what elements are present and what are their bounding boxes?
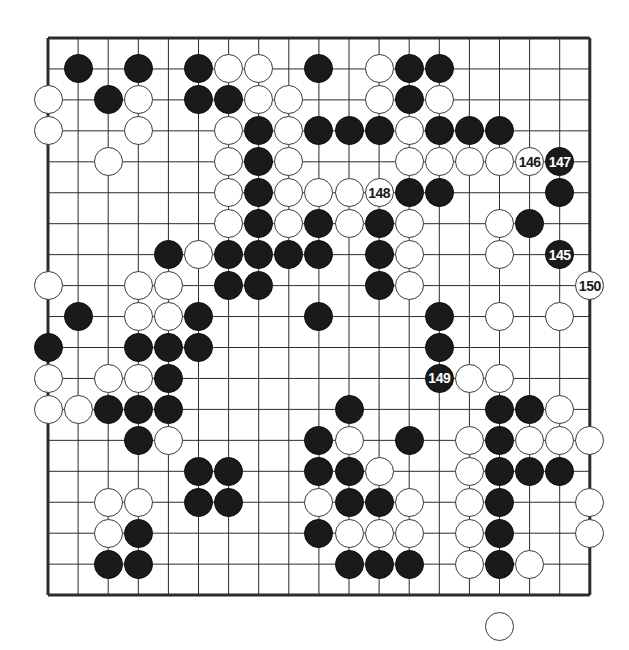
black-stone[interactable] — [154, 364, 183, 393]
black-stone[interactable] — [154, 333, 183, 362]
white-stone[interactable] — [455, 519, 484, 548]
white-stone[interactable] — [485, 302, 514, 331]
white-stone[interactable] — [425, 85, 454, 114]
white-stone[interactable] — [335, 209, 364, 238]
black-stone[interactable] — [365, 209, 394, 238]
white-stone[interactable] — [455, 364, 484, 393]
black-stone[interactable] — [124, 395, 153, 424]
black-stone[interactable] — [335, 488, 364, 517]
black-stone[interactable] — [515, 395, 544, 424]
white-stone[interactable] — [395, 240, 424, 269]
white-stone[interactable] — [124, 85, 153, 114]
white-stone[interactable] — [154, 271, 183, 300]
white-stone[interactable] — [304, 488, 333, 517]
white-stone[interactable] — [124, 116, 153, 145]
white-stone[interactable] — [124, 488, 153, 517]
white-stone[interactable] — [455, 488, 484, 517]
white-stone[interactable] — [485, 209, 514, 238]
black-stone[interactable] — [184, 302, 213, 331]
black-stone[interactable] — [425, 116, 454, 145]
white-stone[interactable] — [335, 178, 364, 207]
black-stone[interactable] — [124, 426, 153, 455]
black-stone[interactable] — [485, 519, 514, 548]
black-stone[interactable] — [365, 271, 394, 300]
white-stone[interactable] — [485, 240, 514, 269]
black-stone[interactable] — [94, 550, 123, 579]
white-stone[interactable] — [545, 426, 574, 455]
white-stone[interactable] — [575, 519, 604, 548]
white-stone[interactable] — [455, 550, 484, 579]
white-stone[interactable] — [64, 395, 93, 424]
white-stone[interactable] — [34, 271, 63, 300]
white-stone[interactable] — [124, 271, 153, 300]
black-stone[interactable] — [485, 426, 514, 455]
black-stone[interactable] — [154, 240, 183, 269]
white-stone[interactable] — [545, 395, 574, 424]
black-stone[interactable] — [214, 488, 243, 517]
black-stone[interactable] — [154, 395, 183, 424]
white-stone[interactable] — [365, 54, 394, 83]
white-stone[interactable] — [395, 116, 424, 145]
black-stone[interactable] — [304, 457, 333, 486]
black-stone[interactable] — [545, 457, 574, 486]
white-stone[interactable] — [395, 209, 424, 238]
black-stone[interactable] — [485, 488, 514, 517]
white-stone[interactable] — [455, 147, 484, 176]
black-stone[interactable] — [335, 116, 364, 145]
white-stone[interactable] — [34, 85, 63, 114]
black-stone[interactable] — [335, 457, 364, 486]
black-stone[interactable] — [124, 333, 153, 362]
black-stone[interactable] — [395, 426, 424, 455]
white-stone[interactable] — [335, 519, 364, 548]
white-stone[interactable] — [395, 147, 424, 176]
white-stone[interactable] — [455, 426, 484, 455]
black-stone[interactable] — [124, 519, 153, 548]
white-stone[interactable] — [395, 488, 424, 517]
black-stone[interactable] — [425, 302, 454, 331]
black-stone[interactable] — [64, 302, 93, 331]
white-stone[interactable] — [575, 488, 604, 517]
white-stone[interactable] — [395, 519, 424, 548]
black-stone[interactable] — [365, 240, 394, 269]
white-stone[interactable] — [94, 519, 123, 548]
white-stone[interactable] — [34, 116, 63, 145]
black-stone[interactable] — [94, 395, 123, 424]
black-stone[interactable] — [184, 457, 213, 486]
white-stone[interactable] — [575, 426, 604, 455]
black-stone[interactable] — [335, 395, 364, 424]
white-stone[interactable] — [34, 395, 63, 424]
black-stone[interactable] — [124, 550, 153, 579]
black-stone[interactable] — [365, 550, 394, 579]
white-stone[interactable] — [455, 457, 484, 486]
white-stone[interactable] — [154, 302, 183, 331]
white-stone[interactable] — [515, 426, 544, 455]
black-stone[interactable] — [425, 178, 454, 207]
white-stone[interactable] — [485, 364, 514, 393]
black-stone[interactable] — [485, 457, 514, 486]
white-stone[interactable] — [365, 457, 394, 486]
black-stone[interactable] — [515, 457, 544, 486]
white-stone[interactable] — [515, 550, 544, 579]
white-stone[interactable] — [395, 271, 424, 300]
black-stone[interactable] — [395, 178, 424, 207]
white-stone[interactable] — [485, 612, 514, 641]
black-stone[interactable] — [94, 85, 123, 114]
white-stone[interactable] — [124, 364, 153, 393]
black-stone[interactable] — [395, 85, 424, 114]
black-stone[interactable] — [214, 457, 243, 486]
white-stone[interactable] — [335, 426, 364, 455]
white-stone[interactable] — [94, 488, 123, 517]
black-stone[interactable] — [395, 550, 424, 579]
black-stone[interactable] — [365, 116, 394, 145]
white-stone[interactable] — [184, 240, 213, 269]
white-stone[interactable] — [365, 85, 394, 114]
move-stone-148[interactable]: 148 — [365, 178, 394, 207]
white-stone[interactable] — [94, 364, 123, 393]
black-stone[interactable] — [485, 395, 514, 424]
black-stone[interactable] — [34, 333, 63, 362]
black-stone[interactable] — [304, 519, 333, 548]
black-stone[interactable] — [184, 488, 213, 517]
black-stone[interactable] — [425, 333, 454, 362]
move-stone-149[interactable]: 149 — [425, 364, 454, 393]
white-stone[interactable] — [425, 147, 454, 176]
